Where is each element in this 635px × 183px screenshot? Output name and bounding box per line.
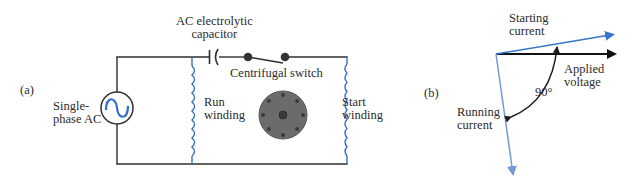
centrifugal-switch-label: Centrifugal switch — [230, 67, 323, 80]
applied-voltage-label: Applied voltage — [564, 63, 604, 89]
start-winding-label-line2: winding — [342, 109, 383, 122]
applied-voltage-label-line2: voltage — [564, 76, 604, 89]
run-winding-label: Run winding — [204, 96, 245, 122]
centrifugal-switch-icon — [244, 53, 290, 63]
angle-arc-90deg — [511, 47, 557, 117]
capacitor-icon — [210, 49, 219, 65]
panel-a-tag: (a) — [20, 84, 34, 97]
angle-label: 90° — [535, 86, 553, 99]
capacitor-label-line2: capacitor — [176, 28, 253, 41]
phasor-panel-b — [496, 35, 615, 175]
running-current-label-line2: current — [457, 119, 500, 132]
starting-current-label: Starting current — [509, 12, 549, 38]
ac-source-label: Single- phase AC — [53, 100, 101, 126]
running-current-label: Running current — [457, 106, 500, 132]
rotor-icon — [259, 91, 307, 139]
capacitor-label: AC electrolytic capacitor — [176, 15, 253, 41]
panel-b-tag: (b) — [424, 87, 439, 100]
ac-source-label-line2: phase AC — [53, 113, 101, 126]
start-winding-label: Start winding — [342, 96, 383, 122]
ac-source-icon — [101, 92, 133, 124]
run-winding-coil — [192, 57, 195, 164]
starting-current-label-line2: current — [509, 25, 549, 38]
run-winding-label-line2: winding — [204, 109, 245, 122]
